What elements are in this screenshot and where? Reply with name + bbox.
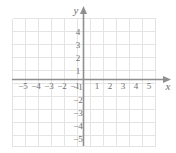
y-tick-label: −3 [73,108,83,118]
x-tick-label: −4 [31,81,41,91]
x-tick-label: −5 [18,81,28,91]
figure-background [0,0,176,153]
y-tick-label: −4 [73,121,83,131]
y-tick-label: 3 [76,40,81,50]
y-tick-label: −1 [73,82,83,92]
y-axis-label: y [73,4,79,16]
y-tick-label: 1 [76,66,81,76]
x-tick-label: 5 [147,81,152,91]
x-tick-label: −3 [44,81,54,91]
coordinate-plane-svg: −5 −4 −3 −2 −1 1 2 3 4 5 4 3 2 1 −1 −2 −… [0,0,176,153]
y-tick-label: 4 [76,27,81,37]
x-tick-label: 3 [121,81,126,91]
y-tick-label: −5 [73,134,83,144]
x-tick-label: 2 [108,81,113,91]
y-tick-labels-negative: −1 −2 −3 −4 −5 [73,82,83,144]
x-tick-label: 1 [95,81,100,91]
x-tick-label: 4 [134,81,139,91]
y-tick-label: −2 [73,95,83,105]
x-tick-label: −2 [57,81,67,91]
coordinate-plane-figure: −5 −4 −3 −2 −1 1 2 3 4 5 4 3 2 1 −1 −2 −… [0,0,176,153]
x-axis-label: x [165,80,171,92]
y-tick-label: 2 [76,53,81,63]
